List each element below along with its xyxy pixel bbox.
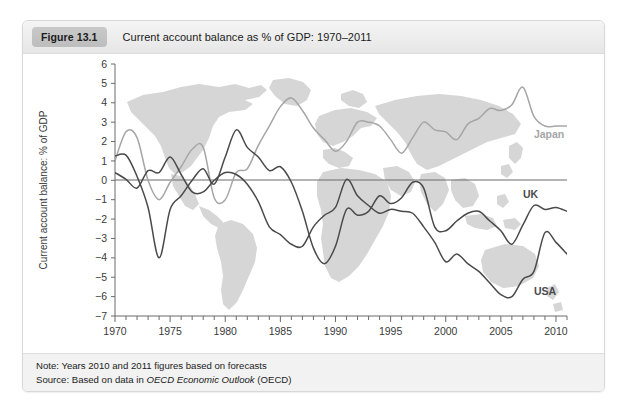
y-tick-label: −7	[95, 310, 107, 322]
figure-note: Note: Years 2010 and 2011 figures based …	[36, 359, 604, 373]
y-tick-label: 3	[101, 116, 107, 128]
current-account-balance-line-chart: 6543210−1−2−3−4−5−6−7 197019751980198519…	[23, 54, 604, 354]
x-tick-label: 2010	[544, 325, 568, 337]
y-tick-label: −3	[95, 232, 107, 244]
note-text: Years 2010 and 2011 figures based on for…	[59, 360, 267, 371]
x-tick-label: 1975	[158, 325, 182, 337]
x-tick-label: 1985	[269, 325, 293, 337]
figure-source: Source: Based on data in OECD Economic O…	[36, 373, 604, 387]
figure-number-badge: Figure 13.1	[32, 27, 107, 47]
x-axis-ticks: 197019751980198519901995200020052010	[103, 316, 567, 337]
x-tick-label: 1980	[214, 325, 238, 337]
x-tick-label: 2005	[489, 325, 513, 337]
y-axis-ticks: 6543210−1−2−3−4−5−6−7	[95, 58, 115, 322]
series-label-uk: UK	[523, 188, 539, 200]
source-label: Source:	[36, 374, 69, 385]
series-label-usa: USA	[534, 285, 557, 297]
y-tick-label: −4	[95, 251, 107, 263]
figure-card: Figure 13.1 Current account balance as %…	[22, 20, 605, 392]
chart-plot-region: 6543210−1−2−3−4−5−6−7 197019751980198519…	[23, 54, 604, 354]
x-tick-label: 1970	[103, 325, 127, 337]
note-label: Note:	[36, 360, 59, 371]
y-tick-label: 1	[101, 155, 107, 167]
world-map-background-icon	[127, 78, 563, 312]
x-tick-label: 1990	[324, 325, 348, 337]
y-tick-label: 6	[101, 58, 107, 70]
source-publication: OECD Economic Outlook	[146, 374, 254, 385]
x-tick-label: 1995	[379, 325, 403, 337]
figure-header: Figure 13.1 Current account balance as %…	[23, 21, 604, 54]
figure-footer: Note: Years 2010 and 2011 figures based …	[23, 353, 604, 391]
source-prefix: Based on data in	[69, 374, 146, 385]
y-tick-label: −6	[95, 290, 107, 302]
y-tick-label: −1	[95, 193, 107, 205]
y-tick-label: 0	[101, 174, 107, 186]
y-tick-label: 4	[101, 96, 107, 108]
y-tick-label: −2	[95, 213, 107, 225]
y-axis-title: Current account balance: % of GDP	[38, 110, 49, 269]
x-tick-label: 2000	[434, 325, 458, 337]
source-suffix: (OECD)	[255, 374, 292, 385]
y-tick-label: −5	[95, 271, 107, 283]
figure-title: Current account balance as % of GDP: 197…	[123, 31, 372, 43]
y-tick-label: 5	[101, 77, 107, 89]
y-tick-label: 2	[101, 135, 107, 147]
series-label-japan: Japan	[534, 128, 564, 140]
